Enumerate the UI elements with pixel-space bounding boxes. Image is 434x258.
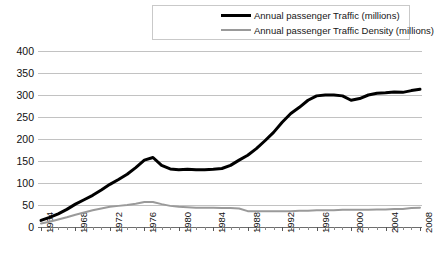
x-tick-1983 [205, 227, 206, 230]
legend-entry-annual-passenger-traffic-density: Annual passenger Traffic Density (millio… [157, 23, 409, 38]
x-tick-label-1984: 1984 [217, 212, 227, 233]
line-swatch-black-icon [221, 14, 251, 17]
y-axis-labels: 400350300250200150100500 [0, 0, 34, 258]
y-tick-label-300: 300 [4, 90, 34, 100]
x-tick-1999 [342, 227, 343, 230]
x-tick-label-2004: 2004 [390, 212, 400, 233]
x-tick-label-2008: 2008 [424, 212, 434, 233]
x-tick-1995 [308, 227, 309, 230]
y-tick-label-50: 50 [4, 200, 34, 210]
x-tick-2003 [377, 227, 378, 230]
x-tick-label-1968: 1968 [79, 212, 89, 233]
x-tick-1968 [75, 227, 76, 231]
gridline-200 [38, 139, 422, 140]
y-tick-label-350: 350 [4, 68, 34, 78]
x-tick-1978 [162, 227, 163, 230]
x-tick-1970 [93, 227, 94, 230]
x-tick-2007 [411, 227, 412, 230]
gridline-250 [38, 117, 422, 118]
x-tick-1996 [317, 227, 318, 231]
line-swatch-gray-icon [221, 29, 251, 31]
y-tick-label-0: 0 [4, 222, 34, 232]
x-tick-1990 [265, 227, 266, 230]
x-tick-1979 [170, 227, 171, 230]
x-tick-1971 [101, 227, 102, 230]
legend-label-1: Annual passenger Traffic Density (millio… [254, 25, 434, 36]
x-tick-2004 [386, 227, 387, 231]
gridline-400 [38, 51, 422, 52]
x-tick-2000 [351, 227, 352, 231]
legend-entry-annual-passenger-traffic: Annual passenger Traffic (millions) [157, 8, 409, 23]
x-tick-label-1988: 1988 [252, 212, 262, 233]
plot-area [38, 51, 422, 227]
x-tick-1975 [136, 227, 137, 230]
x-tick-1998 [334, 227, 335, 230]
x-tick-label-1972: 1972 [114, 212, 124, 233]
gridline-150 [38, 161, 422, 162]
x-tick-1967 [67, 227, 68, 230]
x-tick-1988 [248, 227, 249, 231]
y-tick-label-250: 250 [4, 112, 34, 122]
x-tick-label-2000: 2000 [355, 212, 365, 233]
x-tick-2008 [420, 227, 421, 231]
x-tick-1972 [110, 227, 111, 231]
y-tick-label-200: 200 [4, 134, 34, 144]
x-tick-1980 [179, 227, 180, 231]
x-tick-1992 [282, 227, 283, 231]
gridline-100 [38, 183, 422, 184]
x-tick-2002 [368, 227, 369, 230]
x-tick-1986 [231, 227, 232, 230]
x-tick-label-1976: 1976 [148, 212, 158, 233]
x-tick-label-1964: 1964 [45, 212, 55, 233]
x-tick-1976 [144, 227, 145, 231]
y-tick-label-150: 150 [4, 156, 34, 166]
gridline-350 [38, 73, 422, 74]
chart-legend: Annual passenger Traffic (millions) Annu… [152, 5, 410, 40]
x-tick-1984 [213, 227, 214, 231]
x-tick-label-1992: 1992 [286, 212, 296, 233]
x-tick-1964 [41, 227, 42, 231]
x-tick-2006 [403, 227, 404, 230]
x-tick-1991 [274, 227, 275, 230]
x-tick-label-1996: 1996 [321, 212, 331, 233]
x-tick-1987 [239, 227, 240, 230]
y-tick-label-400: 400 [4, 46, 34, 56]
legend-label-0: Annual passenger Traffic (millions) [254, 10, 400, 21]
x-tick-1994 [299, 227, 300, 230]
gridline-300 [38, 95, 422, 96]
x-tick-1974 [127, 227, 128, 230]
x-tick-1966 [58, 227, 59, 230]
x-tick-label-1980: 1980 [183, 212, 193, 233]
y-tick-label-100: 100 [4, 178, 34, 188]
gridline-50 [38, 205, 422, 206]
x-tick-1982 [196, 227, 197, 230]
